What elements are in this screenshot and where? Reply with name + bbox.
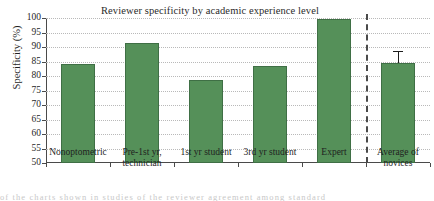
gridline bbox=[46, 76, 430, 77]
x-axis-tick-label-line: Pre-1st yr, bbox=[122, 147, 161, 158]
x-axis-tick-label: 1st yr student bbox=[180, 147, 231, 158]
gridline bbox=[46, 134, 430, 135]
y-axis-tick-label: 70 bbox=[32, 100, 42, 110]
error-bar-line bbox=[398, 51, 399, 62]
y-axis-tick-mark bbox=[42, 47, 46, 48]
x-axis-tick-mark bbox=[46, 163, 47, 167]
y-axis-tick-label: 95 bbox=[32, 28, 42, 38]
error-bar-cap bbox=[393, 51, 403, 52]
y-axis-tick-mark bbox=[42, 105, 46, 106]
y-axis-tick-mark bbox=[42, 134, 46, 135]
x-axis-tick-mark bbox=[430, 163, 431, 167]
x-axis-tick-label-line: Average of bbox=[377, 147, 419, 158]
y-axis-tick-label: 80 bbox=[32, 71, 42, 81]
y-axis-tick-mark bbox=[42, 120, 46, 121]
y-axis-tick-label: 60 bbox=[32, 129, 42, 139]
y-axis-tick-mark bbox=[42, 62, 46, 63]
x-axis-tick-label-line: 1st yr student bbox=[180, 147, 231, 158]
y-axis-tick-label: 90 bbox=[32, 42, 42, 52]
x-axis-tick-mark bbox=[366, 163, 367, 167]
gridline bbox=[46, 33, 430, 34]
gridline bbox=[46, 62, 430, 63]
y-axis-tick-label: 50 bbox=[32, 158, 42, 168]
x-axis-tick-label: Pre-1st yr,technician bbox=[122, 147, 161, 168]
x-axis-tick-label-line: novices bbox=[377, 158, 419, 169]
x-axis-tick-label-line: Expert bbox=[321, 147, 346, 158]
y-axis-tick-mark bbox=[42, 149, 46, 150]
plot-area: 10095908580757065605550 bbox=[46, 18, 430, 163]
x-axis-tick-label-line: 3rd yr student bbox=[244, 147, 297, 158]
gridline bbox=[46, 105, 430, 106]
x-axis-tick-mark bbox=[302, 163, 303, 167]
gridline bbox=[46, 18, 430, 19]
x-axis-tick-mark bbox=[238, 163, 239, 167]
chart-figure: Reviewer specificity by academic experie… bbox=[0, 0, 434, 201]
x-axis-tick-label: Average ofnovices bbox=[377, 147, 419, 168]
x-axis-tick-label: Nonoptometric bbox=[49, 147, 107, 158]
y-axis-tick-mark bbox=[42, 33, 46, 34]
y-axis-tick-mark bbox=[42, 91, 46, 92]
x-axis-tick-label: Expert bbox=[321, 147, 346, 158]
y-axis-tick-label: 100 bbox=[27, 13, 41, 23]
y-axis-tick-mark bbox=[42, 18, 46, 19]
bar[interactable] bbox=[317, 19, 351, 163]
x-axis-tick-label-line: Nonoptometric bbox=[49, 147, 107, 158]
y-axis-tick-label: 65 bbox=[32, 115, 42, 125]
y-axis-title: Specificity (%) bbox=[11, 0, 22, 118]
y-axis-tick-label: 85 bbox=[32, 57, 42, 67]
y-axis-tick-label: 55 bbox=[32, 144, 42, 154]
x-axis-tick-mark bbox=[174, 163, 175, 167]
x-axis-tick-label: 3rd yr student bbox=[244, 147, 297, 158]
page-artifact-text: of the charts shown in studies of the re… bbox=[0, 192, 434, 201]
y-axis-tick-label: 75 bbox=[32, 86, 42, 96]
x-axis-tick-mark bbox=[110, 163, 111, 167]
bar[interactable] bbox=[125, 43, 159, 163]
gridline bbox=[46, 91, 430, 92]
gridline bbox=[46, 120, 430, 121]
y-axis-tick-mark bbox=[42, 76, 46, 77]
x-axis-tick-label-line: technician bbox=[122, 158, 161, 169]
group-divider bbox=[366, 14, 368, 163]
gridline bbox=[46, 47, 430, 48]
chart-title: Reviewer specificity by academic experie… bbox=[60, 5, 360, 16]
